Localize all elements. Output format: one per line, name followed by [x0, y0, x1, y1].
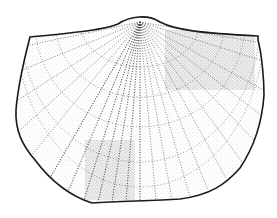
shell-illustration: brachiopod shell illustration [0, 0, 277, 218]
shell-drawing [0, 0, 277, 218]
